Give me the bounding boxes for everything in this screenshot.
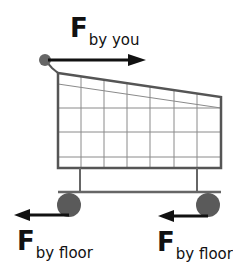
label-force-by-floor-right: Fby floor [157,229,233,255]
left-wheel [57,193,81,217]
right-wheel [196,193,220,217]
force-subscript: by floor [176,245,233,263]
basket-grid [58,77,221,168]
label-force-by-you: Fby you [70,15,140,41]
force-symbol: F [17,226,35,256]
force-symbol: F [157,227,175,257]
force-subscript: by floor [36,244,93,262]
force-subscript: by you [89,31,140,49]
force-symbol: F [70,13,88,43]
label-force-by-floor-left: Fby floor [17,228,93,254]
arrow-force-by-you [48,54,146,66]
cart-legs [80,168,197,192]
